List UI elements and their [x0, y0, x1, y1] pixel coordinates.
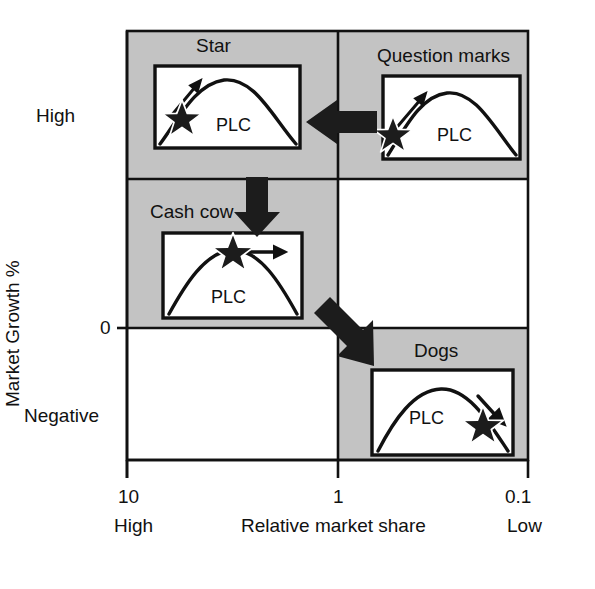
- plc-label-cash-cow: PLC: [211, 287, 246, 307]
- y-axis-label-negative: Negative: [24, 406, 99, 425]
- x-axis-tick-label-1: 1: [333, 487, 344, 506]
- x-axis-tick-label-0-1: 0.1: [505, 487, 531, 506]
- y-axis-label-zero: 0: [100, 318, 111, 337]
- quadrant-title-question-marks: Question marks: [377, 46, 510, 65]
- plc-box-question-marks: PLC: [373, 76, 520, 159]
- flow-arrow-cash-cow-to-dogs: [314, 297, 374, 366]
- plc-box-star: PLC: [155, 66, 300, 148]
- x-axis-end-label-low: Low: [507, 516, 542, 535]
- x-axis-tick-label-10: 10: [118, 487, 139, 506]
- x-axis-title: Relative market share: [241, 516, 426, 535]
- plc-label-dogs: PLC: [409, 408, 444, 428]
- plc-label-star: PLC: [216, 115, 251, 135]
- bcg-matrix-figure: PLC PLC PLC: [0, 0, 595, 589]
- quadrant-title-dogs: Dogs: [414, 341, 458, 360]
- plc-box-cash-cow: PLC: [163, 233, 302, 318]
- plc-box-dogs: PLC: [372, 370, 513, 455]
- x-axis-end-label-high: High: [114, 516, 153, 535]
- quadrant-title-star: Star: [196, 36, 231, 55]
- y-axis-label-high: High: [36, 106, 75, 125]
- quadrant-title-cash-cow: Cash cow: [150, 202, 233, 221]
- plc-label-question-marks: PLC: [437, 125, 472, 145]
- y-axis-title: Market Growth %: [3, 260, 22, 407]
